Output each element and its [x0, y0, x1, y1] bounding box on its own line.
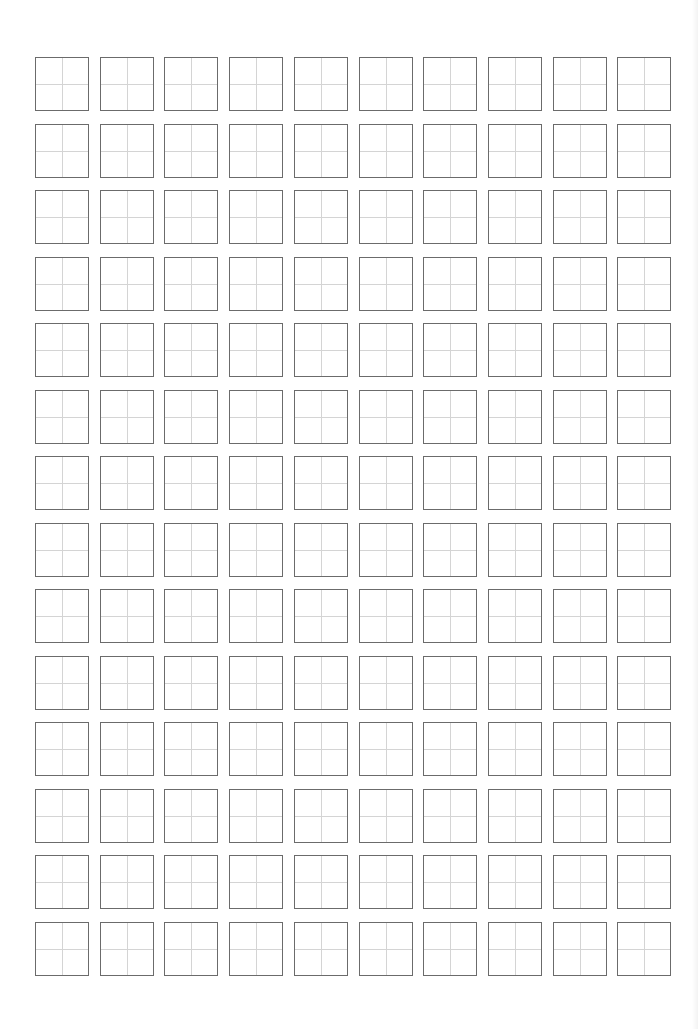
writing-cell: [229, 124, 283, 178]
writing-cell: [423, 922, 477, 976]
writing-cell: [617, 789, 671, 843]
writing-cell: [164, 589, 218, 643]
writing-cell: [229, 589, 283, 643]
horizontal-guide-line: [101, 217, 153, 218]
horizontal-guide-line: [618, 550, 670, 551]
horizontal-guide-line: [489, 550, 541, 551]
horizontal-guide-line: [554, 683, 606, 684]
writing-cell: [488, 922, 542, 976]
writing-cell: [423, 323, 477, 377]
writing-cell: [100, 589, 154, 643]
writing-cell: [100, 124, 154, 178]
writing-cell: [423, 257, 477, 311]
writing-cell: [35, 656, 89, 710]
horizontal-guide-line: [36, 217, 88, 218]
horizontal-guide-line: [489, 483, 541, 484]
writing-cell: [229, 922, 283, 976]
writing-cell: [100, 789, 154, 843]
writing-cell: [294, 57, 348, 111]
horizontal-guide-line: [36, 949, 88, 950]
horizontal-guide-line: [424, 949, 476, 950]
writing-cell: [488, 323, 542, 377]
writing-cell: [617, 523, 671, 577]
writing-cell: [359, 523, 413, 577]
horizontal-guide-line: [101, 882, 153, 883]
writing-cell: [359, 456, 413, 510]
writing-cell: [100, 456, 154, 510]
writing-cell: [229, 656, 283, 710]
horizontal-guide-line: [360, 284, 412, 285]
horizontal-guide-line: [554, 816, 606, 817]
writing-cell: [553, 722, 607, 776]
horizontal-guide-line: [360, 350, 412, 351]
writing-cell: [553, 323, 607, 377]
writing-cell: [164, 456, 218, 510]
horizontal-guide-line: [295, 816, 347, 817]
writing-cell: [359, 922, 413, 976]
horizontal-guide-line: [554, 84, 606, 85]
horizontal-guide-line: [424, 84, 476, 85]
horizontal-guide-line: [101, 816, 153, 817]
horizontal-guide-line: [489, 417, 541, 418]
writing-cell: [553, 257, 607, 311]
horizontal-guide-line: [618, 749, 670, 750]
writing-cell: [359, 124, 413, 178]
writing-cell: [553, 523, 607, 577]
writing-cell: [229, 855, 283, 909]
horizontal-guide-line: [554, 749, 606, 750]
horizontal-guide-line: [165, 882, 217, 883]
writing-cell: [359, 57, 413, 111]
horizontal-guide-line: [295, 84, 347, 85]
writing-cell: [229, 57, 283, 111]
horizontal-guide-line: [618, 483, 670, 484]
horizontal-guide-line: [489, 151, 541, 152]
horizontal-guide-line: [165, 749, 217, 750]
writing-cell: [294, 589, 348, 643]
horizontal-guide-line: [165, 350, 217, 351]
horizontal-guide-line: [554, 550, 606, 551]
horizontal-guide-line: [230, 616, 282, 617]
writing-cell: [617, 323, 671, 377]
horizontal-guide-line: [36, 84, 88, 85]
writing-cell: [617, 722, 671, 776]
horizontal-guide-line: [36, 749, 88, 750]
writing-cell: [359, 589, 413, 643]
horizontal-guide-line: [554, 616, 606, 617]
writing-cell: [617, 257, 671, 311]
horizontal-guide-line: [424, 217, 476, 218]
horizontal-guide-line: [360, 417, 412, 418]
horizontal-guide-line: [165, 284, 217, 285]
horizontal-guide-line: [101, 683, 153, 684]
horizontal-guide-line: [165, 949, 217, 950]
writing-cell: [294, 124, 348, 178]
writing-cell: [35, 922, 89, 976]
writing-cell: [553, 855, 607, 909]
writing-cell: [35, 789, 89, 843]
horizontal-guide-line: [165, 816, 217, 817]
writing-cell: [35, 722, 89, 776]
writing-cell: [423, 390, 477, 444]
horizontal-guide-line: [230, 550, 282, 551]
writing-cell: [294, 257, 348, 311]
writing-cell: [229, 722, 283, 776]
writing-cell: [617, 390, 671, 444]
horizontal-guide-line: [424, 816, 476, 817]
writing-cell: [164, 57, 218, 111]
writing-cell: [423, 190, 477, 244]
horizontal-guide-line: [489, 284, 541, 285]
horizontal-guide-line: [36, 816, 88, 817]
horizontal-guide-line: [360, 616, 412, 617]
writing-cell: [553, 456, 607, 510]
horizontal-guide-line: [360, 84, 412, 85]
writing-cell: [294, 789, 348, 843]
horizontal-guide-line: [618, 816, 670, 817]
writing-cell: [359, 190, 413, 244]
horizontal-guide-line: [295, 882, 347, 883]
writing-cell: [359, 722, 413, 776]
writing-cell: [229, 190, 283, 244]
writing-cell: [359, 855, 413, 909]
writing-cell: [617, 589, 671, 643]
horizontal-guide-line: [101, 284, 153, 285]
writing-cell: [164, 257, 218, 311]
writing-cell: [359, 257, 413, 311]
